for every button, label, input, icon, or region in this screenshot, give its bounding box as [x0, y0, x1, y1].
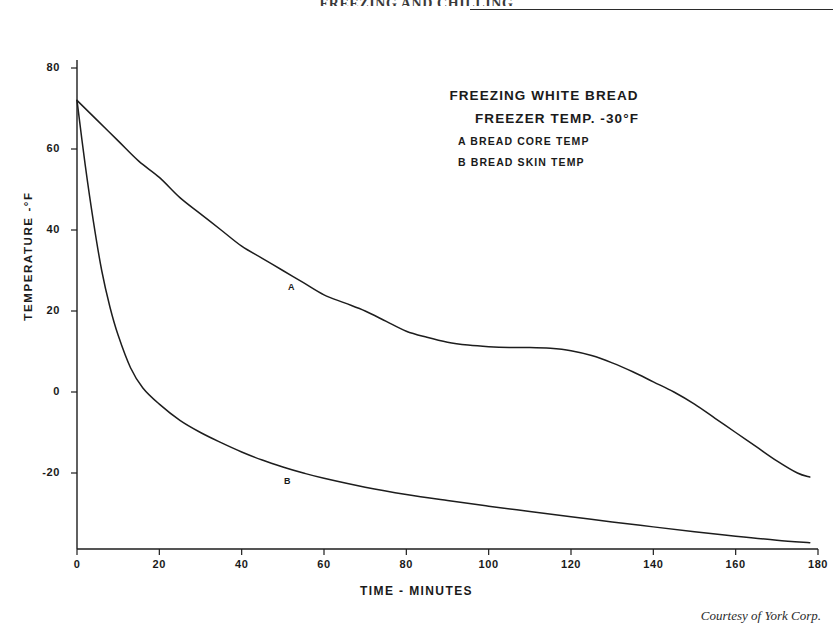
curve-label-b: B	[284, 476, 291, 486]
y-tick-label: 0	[20, 385, 60, 397]
x-tick-label: 160	[716, 558, 756, 570]
y-tick-marks	[71, 68, 77, 473]
curve-label-a: A	[288, 282, 295, 292]
x-tick-label: 120	[551, 558, 591, 570]
x-tick-label: 0	[57, 558, 97, 570]
chart-figure: TEMPERATURE -°F TIME - MINUTES 806040200…	[0, 0, 833, 636]
x-tick-label: 100	[469, 558, 509, 570]
x-axis-title: TIME - MINUTES	[0, 584, 833, 598]
legend-entry-b: B BREAD SKIN TEMP	[404, 156, 684, 168]
x-tick-marks	[77, 549, 818, 555]
legend-subtitle: FREEZER TEMP. -30°F	[404, 111, 684, 126]
x-tick-label: 40	[222, 558, 262, 570]
y-tick-label: 80	[20, 61, 60, 73]
x-tick-label: 60	[304, 558, 344, 570]
y-tick-label: 20	[20, 304, 60, 316]
x-tick-label: 140	[633, 558, 673, 570]
chart-legend: FREEZING WHITE BREAD FREEZER TEMP. -30°F…	[404, 88, 684, 168]
x-tick-label: 180	[798, 558, 833, 570]
legend-entry-a: A BREAD CORE TEMP	[404, 135, 684, 147]
legend-title: FREEZING WHITE BREAD	[404, 88, 684, 103]
source-credit: Courtesy of York Corp.	[0, 608, 821, 624]
x-tick-label: 20	[139, 558, 179, 570]
y-tick-label: 40	[20, 223, 60, 235]
x-tick-label: 80	[386, 558, 426, 570]
y-tick-label: 60	[20, 142, 60, 154]
y-tick-label: -20	[20, 466, 60, 478]
